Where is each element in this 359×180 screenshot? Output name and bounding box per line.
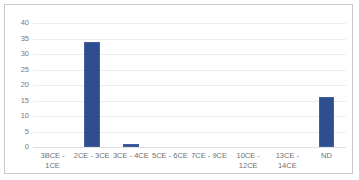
y-axis-tick-label: 15 bbox=[5, 97, 29, 105]
x-axis-category-label: 3BCE - 1CE bbox=[33, 151, 72, 175]
bar-slot bbox=[229, 23, 268, 147]
x-axis-category-label: 3CE - 4CE bbox=[111, 151, 150, 175]
x-axis-category-label: 7CE - 9CE bbox=[190, 151, 229, 175]
bar-series bbox=[33, 23, 346, 147]
bar-slot bbox=[72, 23, 111, 147]
y-axis-tick-label: 40 bbox=[5, 19, 29, 27]
bar-slot bbox=[190, 23, 229, 147]
y-axis-tick-label: 20 bbox=[5, 81, 29, 89]
y-axis-tick-label: 25 bbox=[5, 66, 29, 74]
x-axis-category-label: 13CE - 14CE bbox=[268, 151, 307, 175]
bar-slot bbox=[111, 23, 150, 147]
bar-slot bbox=[307, 23, 346, 147]
y-axis-tick-label: 10 bbox=[5, 112, 29, 120]
bar[interactable] bbox=[319, 97, 335, 147]
bar[interactable] bbox=[123, 144, 139, 147]
gridline bbox=[33, 147, 346, 148]
chart-plot-wrapper: 0510152025303540 3BCE - 1CE2CE - 3CE3CE … bbox=[5, 5, 352, 173]
x-axis-category-label: ND bbox=[307, 151, 346, 175]
chart-frame: 0510152025303540 3BCE - 1CE2CE - 3CE3CE … bbox=[4, 4, 353, 174]
x-axis-category-labels: 3BCE - 1CE2CE - 3CE3CE - 4CE5CE - 6CE7CE… bbox=[33, 151, 346, 175]
bar[interactable] bbox=[84, 42, 100, 147]
bar-slot bbox=[33, 23, 72, 147]
x-axis-category-label: 5CE - 6CE bbox=[150, 151, 189, 175]
plot-area bbox=[33, 23, 346, 147]
x-axis-category-label: 2CE - 3CE bbox=[72, 151, 111, 175]
y-axis-tick-label: 0 bbox=[5, 143, 29, 151]
bar-slot bbox=[150, 23, 189, 147]
y-axis-tick-label: 30 bbox=[5, 50, 29, 58]
y-axis-tick-label: 5 bbox=[5, 128, 29, 136]
y-axis-tick-label: 35 bbox=[5, 35, 29, 43]
x-axis-category-label: 10CE - 12CE bbox=[229, 151, 268, 175]
bar-slot bbox=[268, 23, 307, 147]
